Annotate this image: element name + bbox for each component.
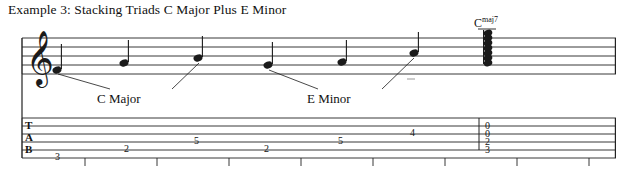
note-head — [263, 60, 274, 70]
annotation-leader-lines — [58, 58, 414, 89]
treble-clef-icon: 𝄞 — [26, 30, 54, 88]
chord-stack — [478, 28, 496, 67]
tab-bottom-ticks — [85, 158, 589, 166]
staff-lines — [22, 38, 616, 74]
svg-text:𝄞: 𝄞 — [26, 30, 54, 88]
music-notation-canvas: 𝄞 — [0, 0, 627, 188]
note-heads — [52, 48, 420, 75]
note-head — [193, 53, 204, 63]
tab-lines — [22, 118, 616, 158]
note-head — [119, 58, 130, 68]
